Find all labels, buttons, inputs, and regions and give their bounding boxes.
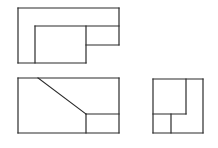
orthographic-drawing (0, 0, 218, 148)
front-view (18, 78, 119, 133)
side-view (153, 79, 203, 133)
front-view-edge (38, 78, 86, 114)
top-view (18, 8, 119, 63)
